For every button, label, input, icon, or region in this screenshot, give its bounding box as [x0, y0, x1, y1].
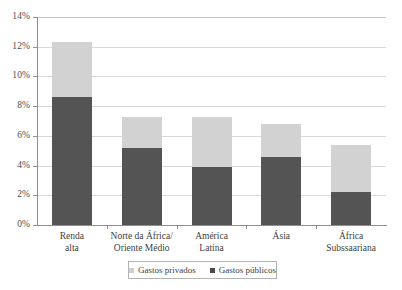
- x-axis-category-label: Norte da África/Oriente Médio: [107, 231, 177, 254]
- y-axis-label: 6%: [0, 131, 30, 141]
- stacked-bar: [192, 117, 232, 225]
- bar-group: [52, 17, 92, 225]
- bar-segment-gastos-publicos: [52, 97, 92, 225]
- stacked-bar: [122, 117, 162, 225]
- stacked-bar: [52, 42, 92, 225]
- bar-segment-gastos-privados: [331, 145, 371, 193]
- x-axis-tick: [107, 225, 108, 229]
- bar-segment-gastos-publicos: [261, 157, 301, 225]
- x-axis-category-label: Ásia: [246, 231, 316, 243]
- bar-segment-gastos-privados: [122, 117, 162, 148]
- x-axis-tick: [246, 225, 247, 229]
- x-axis-category-label: Rendaalta: [37, 231, 107, 254]
- bar-group: [261, 17, 301, 225]
- y-axis-label: 12%: [0, 42, 30, 52]
- bar-segment-gastos-privados: [261, 124, 301, 157]
- legend-item: Gastos privados: [129, 266, 196, 275]
- chart-legend: Gastos privadosGastos públicos: [128, 261, 277, 279]
- legend-swatch-private: [129, 268, 134, 273]
- bar-segment-gastos-publicos: [122, 148, 162, 225]
- x-axis-category-label: ÁfricaSubssaariana: [316, 231, 386, 254]
- y-axis-label: 10%: [0, 71, 30, 81]
- y-axis-line: [37, 17, 38, 226]
- bar-group: [192, 17, 232, 225]
- bar-segment-gastos-privados: [192, 117, 232, 168]
- legend-swatch-public: [210, 268, 215, 273]
- bars-container: [37, 17, 386, 225]
- legend-label: Gastos públicos: [219, 266, 276, 275]
- stacked-bar-chart: 0%2%4%6%8%10%12%14% RendaaltaNorte da Áf…: [0, 0, 402, 290]
- bar-segment-gastos-publicos: [331, 192, 371, 225]
- x-axis-tick: [177, 225, 178, 229]
- bar-group: [331, 17, 371, 225]
- y-axis-label: 8%: [0, 101, 30, 111]
- bar-segment-gastos-publicos: [192, 167, 232, 225]
- stacked-bar: [261, 124, 301, 225]
- y-axis-label: 0%: [0, 220, 30, 230]
- legend-item: Gastos públicos: [210, 266, 276, 275]
- y-axis-label: 14%: [0, 12, 30, 22]
- plot-area: [37, 17, 386, 225]
- x-axis-category-label: AméricaLatina: [177, 231, 247, 254]
- y-axis-label: 2%: [0, 190, 30, 200]
- legend-label: Gastos privados: [138, 266, 196, 275]
- y-axis-label: 4%: [0, 161, 30, 171]
- x-axis-line: [37, 225, 387, 226]
- bar-group: [122, 17, 162, 225]
- stacked-bar: [331, 145, 371, 225]
- x-axis-tick: [316, 225, 317, 229]
- bar-segment-gastos-privados: [52, 42, 92, 97]
